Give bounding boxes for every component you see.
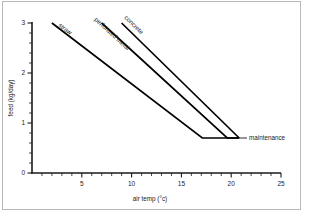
y-tick-label-2: 2 bbox=[21, 69, 25, 76]
chart-figure: 0 1 2 3 5 10 15 20 25 air temp (°c) feed… bbox=[0, 0, 312, 215]
series-label-concrete: concrete bbox=[123, 14, 145, 36]
chart-plot-area: 0 1 2 3 5 10 15 20 25 air temp (°c) feed… bbox=[0, 0, 312, 215]
x-tick-label-10: 10 bbox=[128, 180, 136, 187]
maintenance-label: maintenance bbox=[249, 134, 286, 141]
x-tick-label-25: 25 bbox=[277, 180, 285, 187]
y-tick-label-0: 0 bbox=[21, 169, 25, 176]
y-tick-label-1: 1 bbox=[21, 119, 25, 126]
x-tick-label-15: 15 bbox=[178, 180, 186, 187]
series-line-straw bbox=[52, 23, 239, 138]
x-tick-label-5: 5 bbox=[80, 180, 84, 187]
x-tick-label-20: 20 bbox=[228, 180, 236, 187]
y-tick-label-3: 3 bbox=[21, 19, 25, 26]
y-axis-title: feed (kg/day) bbox=[7, 80, 15, 117]
x-axis-title: air temp (°c) bbox=[133, 195, 167, 203]
